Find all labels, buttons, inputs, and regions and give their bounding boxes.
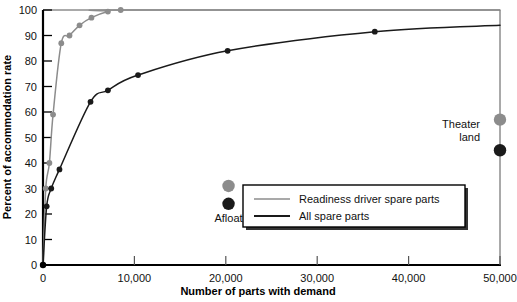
- data-point-marker: [48, 186, 54, 192]
- data-point-marker: [105, 9, 111, 15]
- data-point-marker: [67, 33, 73, 39]
- data-point-marker: [88, 99, 94, 105]
- data-point-marker: [77, 22, 83, 28]
- annotated-point-marker: [494, 144, 506, 156]
- data-point-marker: [118, 7, 124, 13]
- origin-marker: [40, 262, 46, 268]
- annotated-point-marker: [222, 198, 234, 210]
- data-point-marker: [46, 160, 52, 166]
- y-axis-title: Percent of accommodation rate: [1, 55, 13, 219]
- theater-land-label-line2: land: [459, 131, 480, 143]
- x-axis-title: Number of parts with demand: [180, 285, 335, 297]
- x-tick-label: 20,000: [209, 272, 243, 284]
- data-point-marker: [372, 29, 378, 35]
- chart-legend: Readiness driver spare partsAll spare pa…: [243, 185, 468, 230]
- data-point-marker: [105, 87, 111, 93]
- data-point-marker: [135, 72, 141, 78]
- data-point-marker: [57, 166, 63, 172]
- data-point-marker: [50, 112, 56, 118]
- y-tick-label: 60: [25, 106, 37, 118]
- accommodation-rate-line-chart: 0102030405060708090100 010,00020,00030,0…: [0, 0, 517, 302]
- data-point-marker: [58, 40, 64, 46]
- data-point-marker: [44, 203, 50, 209]
- x-tick-label: 0: [40, 272, 46, 284]
- x-tick-label: 40,000: [392, 272, 426, 284]
- x-tick-label: 50,000: [483, 272, 517, 284]
- y-tick-label: 20: [25, 208, 37, 220]
- x-tick-label: 10,000: [118, 272, 152, 284]
- y-tick-label: 70: [25, 81, 37, 93]
- annotated-point-marker: [222, 180, 234, 192]
- y-tick-label: 100: [19, 4, 37, 16]
- chart-container: 0102030405060708090100 010,00020,00030,0…: [0, 0, 517, 302]
- y-tick-label: 50: [25, 132, 37, 144]
- y-tick-label: 80: [25, 55, 37, 67]
- afloat-label: Afloat: [214, 212, 242, 224]
- y-tick-label: 0: [31, 259, 37, 271]
- x-tick-label: 30,000: [300, 272, 334, 284]
- data-point-marker: [89, 15, 95, 21]
- y-tick-label: 30: [25, 183, 37, 195]
- theater-land-label-line1: Theater: [442, 118, 480, 130]
- y-tick-label: 40: [25, 157, 37, 169]
- annotated-point-marker: [494, 113, 506, 125]
- legend-entry-label: Readiness driver spare parts: [299, 193, 440, 205]
- y-tick-label: 10: [25, 234, 37, 246]
- data-point-marker: [43, 186, 49, 192]
- legend-entry-label: All spare parts: [299, 210, 370, 222]
- data-point-marker: [225, 48, 231, 54]
- y-tick-label: 90: [25, 30, 37, 42]
